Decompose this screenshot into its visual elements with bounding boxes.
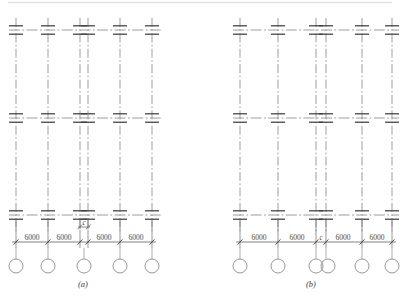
grid-bubble — [9, 259, 23, 273]
dimension-label: 6000 — [128, 233, 143, 242]
grid-bubble — [41, 259, 55, 273]
panel-a: c — [9, 18, 161, 273]
grid-bubble — [385, 259, 399, 273]
panel-a-grid-bubbles — [9, 248, 159, 273]
grid-bubble — [233, 259, 247, 273]
grid-bubble — [145, 259, 159, 273]
dimension-label: 6000 — [56, 233, 71, 242]
dimension-label: 6000 — [24, 233, 39, 242]
panel-a-column-centerlines — [16, 18, 152, 232]
grid-bubble — [271, 259, 285, 273]
grid-bubble — [77, 259, 91, 273]
dimension-label: 6000 — [335, 233, 350, 242]
structural-frame-figure: c — [0, 0, 401, 296]
panel-b-caption: (b) — [306, 279, 316, 289]
dimension-label: 6000 — [96, 233, 111, 242]
panel-b-grid-bubbles — [233, 248, 399, 273]
dimension-label: 6000 — [289, 233, 304, 242]
panel-a-dimension-line: 6000 6000 6000 6000 — [12, 233, 156, 245]
panel-b: 6000 6000 c 6000 6000 — [233, 18, 399, 273]
dimension-label: 6000 — [369, 233, 384, 242]
panel-b-column-centerlines — [240, 18, 392, 232]
grid-bubble — [355, 259, 369, 273]
gap-dimension-label: c — [319, 234, 323, 242]
gap-dimension-label: c — [82, 219, 86, 227]
panel-a-caption: (a) — [78, 279, 88, 289]
frame-drawing-canvas: c — [0, 0, 401, 296]
dimension-label: 6000 — [251, 233, 266, 242]
grid-bubble — [113, 259, 127, 273]
